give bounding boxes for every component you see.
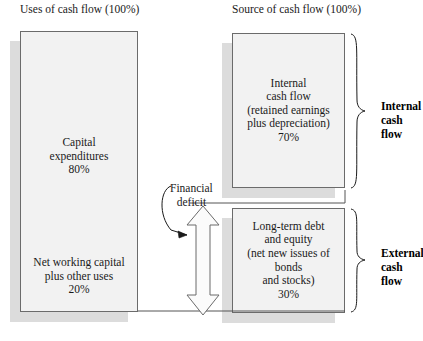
- brace-label-internal: Internal cash flow: [381, 100, 423, 141]
- financial-deficit-arrowhead: [178, 231, 187, 238]
- external-cash-flow-box: Long-term debt and equity (net new issue…: [232, 208, 345, 313]
- brace-label-external: External cash flow: [381, 247, 423, 288]
- internal-cash-flow-label: Internal cash flow (retained earnings pl…: [243, 77, 334, 145]
- external-cash-flow-label: Long-term debt and equity (net new issue…: [233, 220, 344, 302]
- uses-of-cash-flow-box: Capital expenditures 80% Net working cap…: [20, 31, 138, 312]
- brace-internal: [351, 34, 365, 188]
- header-source-of-cash-flow: Source of cash flow (100%): [232, 3, 345, 17]
- capital-expenditures-label: Capital expenditures 80%: [21, 136, 137, 177]
- financial-deficit-arrow: [187, 206, 219, 315]
- header-uses-of-cash-flow: Uses of cash flow (100%): [20, 3, 138, 17]
- cash-flow-diagram: Uses of cash flow (100%) Source of cash …: [0, 0, 423, 341]
- financial-deficit-leader-line: [171, 230, 187, 235]
- internal-cash-flow-box: Internal cash flow (retained earnings pl…: [232, 33, 345, 188]
- financial-deficit-label: Financial deficit: [170, 182, 213, 209]
- brace-external: [351, 209, 365, 312]
- net-working-capital-label: Net working capital plus other uses 20%: [21, 256, 137, 297]
